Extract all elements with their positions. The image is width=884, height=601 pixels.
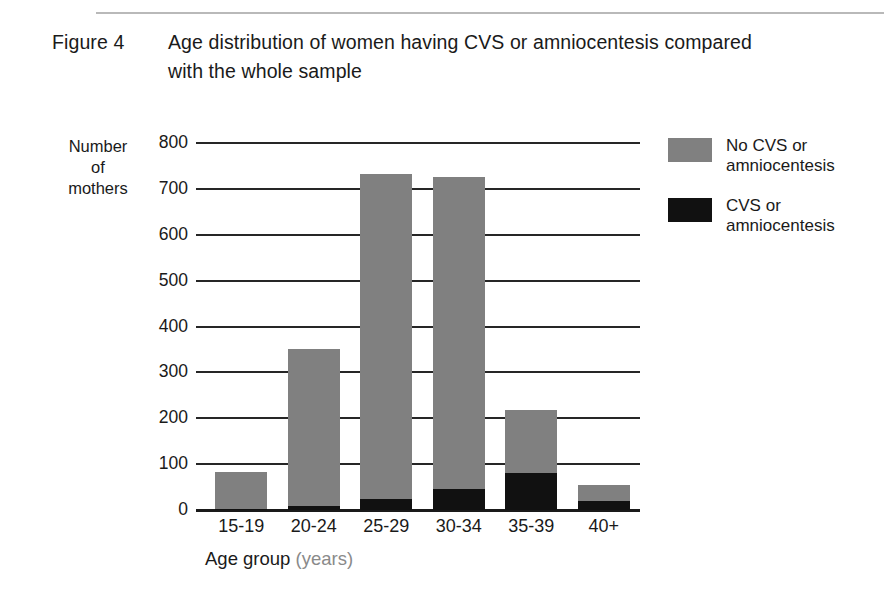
- bar-20-24: [288, 349, 340, 510]
- y-axis-title-line-1: Number: [52, 136, 144, 157]
- y-axis-tick-label: 600: [144, 226, 188, 244]
- y-axis-tick-label: 0: [144, 501, 188, 519]
- y-axis-title-line-3: mothers: [52, 178, 144, 199]
- y-axis-tick-label: 100: [144, 455, 188, 473]
- y-axis-tick-label: 400: [144, 318, 188, 336]
- legend-label-line-1: CVS or: [726, 196, 835, 216]
- bar-segment-no-cvs: [215, 472, 267, 508]
- chart-canvas: Number of mothers 8007006005004003002001…: [0, 0, 884, 601]
- bar-segment-no-cvs: [578, 485, 630, 501]
- x-axis-tick-label: 15-19: [205, 515, 278, 537]
- y-axis-tick-label: 300: [144, 363, 188, 381]
- bar-segment-no-cvs: [433, 177, 485, 489]
- y-axis-tick-label: 200: [144, 409, 188, 427]
- legend-label: CVS oramniocentesis: [726, 196, 835, 236]
- x-axis-title: Age group (years): [205, 548, 353, 570]
- bar-segment-no-cvs: [360, 174, 412, 498]
- y-axis-title-line-2: of: [52, 157, 144, 178]
- x-axis-title-text: Age group: [205, 548, 290, 569]
- x-axis-title-unit: (years): [296, 548, 354, 569]
- bar-series-layer: [205, 143, 640, 510]
- bar-segment-cvs: [360, 499, 412, 510]
- y-axis-tick-label: 500: [144, 272, 188, 290]
- bar-segment-cvs: [578, 501, 630, 510]
- legend-item: CVS oramniocentesis: [668, 196, 878, 236]
- bar-segment-cvs: [505, 473, 557, 510]
- y-axis-title: Number of mothers: [52, 136, 144, 199]
- legend-label-line-1: No CVS or: [726, 136, 835, 156]
- x-axis-tick-label: 35-39: [495, 515, 568, 537]
- x-axis-tick-label: 40+: [568, 515, 641, 537]
- bar-25-29: [360, 174, 412, 510]
- y-axis-tick-label: 700: [144, 180, 188, 198]
- bar-30-34: [433, 177, 485, 510]
- bar-segment-no-cvs: [288, 349, 340, 507]
- bar-segment-cvs: [215, 509, 267, 510]
- bar-35-39: [505, 410, 557, 510]
- y-axis-tick-label: 800: [144, 134, 188, 152]
- legend-item: No CVS oramniocentesis: [668, 136, 878, 176]
- legend-label: No CVS oramniocentesis: [726, 136, 835, 176]
- bar-segment-cvs: [433, 489, 485, 510]
- legend-swatch-gray: [668, 138, 712, 162]
- legend-label-line-2: amniocentesis: [726, 156, 835, 176]
- x-axis-tick-label: 20-24: [278, 515, 351, 537]
- x-axis-tick-label: 25-29: [350, 515, 423, 537]
- legend-label-line-2: amniocentesis: [726, 216, 835, 236]
- bar-segment-cvs: [288, 506, 340, 510]
- bar-15-19: [215, 472, 267, 510]
- x-axis-tick-label: 30-34: [423, 515, 496, 537]
- bar-segment-no-cvs: [505, 410, 557, 473]
- legend-swatch-black: [668, 198, 712, 222]
- bar-40+: [578, 485, 630, 510]
- chart-legend: No CVS oramniocentesisCVS oramniocentesi…: [668, 136, 878, 256]
